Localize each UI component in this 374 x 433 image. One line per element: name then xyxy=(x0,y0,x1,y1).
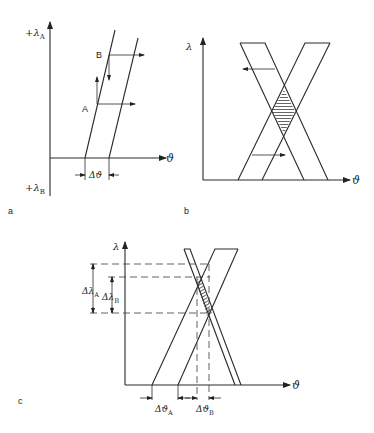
point-b-label: B xyxy=(96,50,102,60)
y-bottom-label: +λB xyxy=(25,182,45,196)
point-a-label: A xyxy=(82,104,88,114)
delta-lambda-a-label: ΔλA xyxy=(81,286,99,299)
delta-theta-b-label: ΔϑB xyxy=(195,404,214,417)
panel-a-label: a xyxy=(8,206,13,216)
panel-b: λ ϑ b xyxy=(184,38,360,216)
wide-band-right-edge xyxy=(178,249,238,385)
x-axis-label: ϑ xyxy=(292,379,300,392)
narrow-band-right-edge xyxy=(184,249,241,385)
delta-theta-label: Δϑ xyxy=(88,170,102,180)
panel-a: A B Δϑ ϑ +λA +λB a xyxy=(8,22,174,216)
wide-band-left-edge xyxy=(152,249,238,385)
panel-c-label: c xyxy=(18,396,23,406)
y-axis-label: λ xyxy=(112,241,119,252)
overlap-region xyxy=(272,90,295,133)
x-axis-label: ϑ xyxy=(166,152,174,165)
x-axis-label: ϑ xyxy=(352,174,360,187)
characteristic-line-2 xyxy=(109,38,138,158)
delta-lambda-b-label: ΔλB xyxy=(101,292,119,305)
y-top-label: +λA xyxy=(25,27,46,41)
panel-b-label: b xyxy=(184,206,189,216)
figure: A B Δϑ ϑ +λA +λB a λ ϑ b xyxy=(0,0,374,433)
delta-theta-a-label: ΔϑA xyxy=(154,404,173,417)
narrow-band-left-edge xyxy=(184,249,235,385)
y-axis-label: λ xyxy=(185,41,192,52)
panel-c: ΔλA ΔλB ΔϑA ΔϑB λ ϑ c xyxy=(18,241,300,417)
